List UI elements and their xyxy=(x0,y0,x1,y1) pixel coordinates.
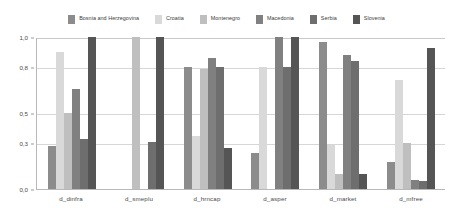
bar[interactable] xyxy=(132,37,140,189)
bar[interactable] xyxy=(259,67,267,189)
bar[interactable] xyxy=(327,145,335,189)
chart-legend: Bosnia and Herzegovina Croatia Montenegr… xyxy=(0,12,453,26)
bar[interactable] xyxy=(56,52,64,189)
y-axis-tick-mark xyxy=(31,114,34,115)
bar-group-d-hrncap xyxy=(174,38,242,189)
bar[interactable] xyxy=(411,180,419,189)
bar-chart-figure: Bosnia and Herzegovina Croatia Montenegr… xyxy=(0,0,453,218)
y-axis-tick-label: 0,5 xyxy=(19,111,28,117)
x-axis-tick-label: d_smeplu xyxy=(105,196,173,210)
y-axis-tick-label: 0,3 xyxy=(19,141,28,147)
legend-item-bosnia-and-herzegovina[interactable]: Bosnia and Herzegovina xyxy=(68,15,139,24)
legend-swatch-icon xyxy=(68,15,75,24)
bar[interactable] xyxy=(80,139,88,189)
y-axis-tick-label: 0,8 xyxy=(19,65,28,71)
legend-item-slovenia[interactable]: Slovenia xyxy=(353,15,385,24)
legend-item-montenegro[interactable]: Montenegro xyxy=(200,15,240,24)
bar-group-d-smeplu xyxy=(106,38,174,189)
bar[interactable] xyxy=(427,48,435,189)
bar-group-d-asper xyxy=(241,38,309,189)
legend-swatch-icon xyxy=(310,15,317,24)
legend-swatch-icon xyxy=(200,15,207,24)
y-axis-tick-mark xyxy=(31,38,34,39)
bar[interactable] xyxy=(216,67,224,189)
x-axis-tick-label: d_mfree xyxy=(377,196,445,210)
x-axis-tick-label: d_asper xyxy=(241,196,309,210)
y-axis-tick-label: 1,0 xyxy=(19,35,28,41)
bar[interactable] xyxy=(395,80,403,189)
y-axis-tick-mark xyxy=(31,144,34,145)
bar[interactable] xyxy=(251,153,259,189)
bar[interactable] xyxy=(335,174,343,189)
bar[interactable] xyxy=(275,37,283,189)
legend-swatch-icon xyxy=(155,15,162,24)
x-axis-tick-label: d_hrncap xyxy=(173,196,241,210)
legend-label: Bosnia and Herzegovina xyxy=(79,16,139,21)
bar-group-d-dinfra xyxy=(38,38,106,189)
bar[interactable] xyxy=(64,113,72,189)
bar[interactable] xyxy=(88,37,96,189)
bar[interactable] xyxy=(419,181,427,189)
legend-swatch-icon xyxy=(256,15,263,24)
bar[interactable] xyxy=(72,89,80,189)
bar[interactable] xyxy=(359,174,367,189)
legend-label: Serbia xyxy=(321,16,337,21)
bar[interactable] xyxy=(387,162,395,189)
bar[interactable] xyxy=(200,69,208,189)
legend-label: Slovenia xyxy=(364,16,385,21)
x-axis-tick-label: d_dinfra xyxy=(37,196,105,210)
bar[interactable] xyxy=(224,148,232,189)
y-axis-tick-mark xyxy=(31,190,34,191)
plot-area xyxy=(36,38,445,190)
y-axis: 1,00,80,50,30,0 xyxy=(0,38,34,190)
bar[interactable] xyxy=(192,136,200,189)
legend-item-croatia[interactable]: Croatia xyxy=(155,15,184,24)
bar-groups xyxy=(38,38,445,189)
bar[interactable] xyxy=(156,37,164,189)
bar[interactable] xyxy=(319,42,327,189)
bar[interactable] xyxy=(403,143,411,189)
legend-label: Macedonia xyxy=(267,16,294,21)
bar[interactable] xyxy=(48,146,56,189)
bar[interactable] xyxy=(184,67,192,189)
legend-item-macedonia[interactable]: Macedonia xyxy=(256,15,294,24)
y-axis-tick-mark xyxy=(31,68,34,69)
bar[interactable] xyxy=(148,142,156,189)
bar[interactable] xyxy=(351,61,359,189)
bar[interactable] xyxy=(343,55,351,189)
bar[interactable] xyxy=(291,37,299,189)
bar[interactable] xyxy=(283,67,291,189)
legend-item-serbia[interactable]: Serbia xyxy=(310,15,337,24)
bar[interactable] xyxy=(208,58,216,189)
legend-label: Croatia xyxy=(166,16,184,21)
x-axis-tick-label: d_market xyxy=(309,196,377,210)
legend-swatch-icon xyxy=(353,15,360,24)
x-axis: d_dinfrad_smeplud_hrncapd_asperd_marketd… xyxy=(37,196,445,210)
bar-group-d-mfree xyxy=(377,38,445,189)
bar-group-d-market xyxy=(309,38,377,189)
legend-label: Montenegro xyxy=(211,16,240,21)
y-axis-tick-label: 0,0 xyxy=(19,187,28,193)
